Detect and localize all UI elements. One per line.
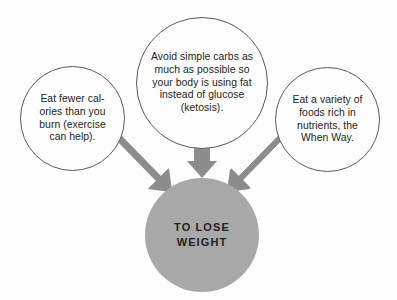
- source-node-right-label: Eat a variety of foods rich in nutrients…: [284, 94, 372, 145]
- diagram-canvas: Eat fewer cal-ories than you burn (exerc…: [0, 0, 397, 300]
- arrow-middle-to-target: [187, 148, 217, 178]
- target-node-to-lose-weight[interactable]: TO LOSE WEIGHT: [145, 178, 259, 292]
- source-node-left[interactable]: Eat fewer cal-ories than you burn (exerc…: [20, 66, 125, 171]
- source-node-right[interactable]: Eat a variety of foods rich in nutrients…: [275, 67, 380, 172]
- target-node-label: TO LOSE WEIGHT: [152, 220, 252, 250]
- source-node-middle-label: Avoid simple carbs as much as possible s…: [146, 51, 258, 114]
- source-node-left-label: Eat fewer cal-ories than you burn (exerc…: [31, 93, 115, 144]
- source-node-middle[interactable]: Avoid simple carbs as much as possible s…: [136, 17, 268, 149]
